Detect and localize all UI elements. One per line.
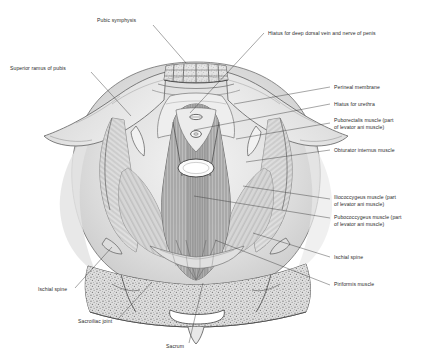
label-line: Ischial spine [334, 254, 363, 260]
label-line: Iliococcygeus muscle (part [334, 194, 397, 200]
label-hiatus-for-urethra: Hiatus for urethra [334, 101, 375, 107]
label-line: Puborectalis muscle (part [334, 117, 394, 123]
label-line: Sacrum [166, 343, 184, 349]
label-line: Sacroiliac joint [78, 318, 113, 324]
label-piriformis-muscle: Piriformis muscle [334, 281, 374, 287]
label-line: Pubic symphysis [97, 17, 137, 23]
label-sacrum: Sacrum [166, 343, 184, 349]
label-line: Hiatus for urethra [334, 101, 375, 107]
label-line: Piriformis muscle [334, 281, 374, 287]
label-ischial-spine-left: Ischial spine [38, 286, 67, 292]
label-obturator-internus-muscle: Obturator internus muscle [334, 147, 395, 153]
label-line: Perineal membrane [334, 84, 380, 90]
label-line: of levator ani muscle) [334, 124, 384, 130]
label-line: Hiatus for deep dorsal vein and nerve of… [268, 30, 376, 36]
label-line: of levator ani muscle) [334, 221, 384, 227]
label-ischial-spine-right: Ischial spine [334, 254, 363, 260]
label-line: Ischial spine [38, 286, 67, 292]
label-hiatus-deep-dorsal-vein: Hiatus for deep dorsal vein and nerve of… [268, 30, 376, 36]
label-line: Obturator internus muscle [334, 147, 395, 153]
label-line: Superior ramus of pubis [10, 65, 66, 71]
label-superior-ramus-of-pubis: Superior ramus of pubis [10, 65, 66, 71]
label-line: of levator ani muscle) [334, 201, 384, 207]
label-line: Pubococcygeus muscle (part [334, 214, 402, 220]
pelvic-floor-figure: Pubic symphysisHiatus for deep dorsal ve… [0, 0, 439, 360]
label-pubic-symphysis: Pubic symphysis [97, 17, 137, 23]
rectal-hiatus-opening [178, 159, 214, 177]
label-perineal-membrane: Perineal membrane [334, 84, 380, 90]
label-sacroiliac-joint: Sacroiliac joint [78, 318, 113, 324]
hiatus-deep-dorsal-vein-opening [190, 114, 202, 119]
hiatus-urethra-opening [191, 131, 202, 138]
